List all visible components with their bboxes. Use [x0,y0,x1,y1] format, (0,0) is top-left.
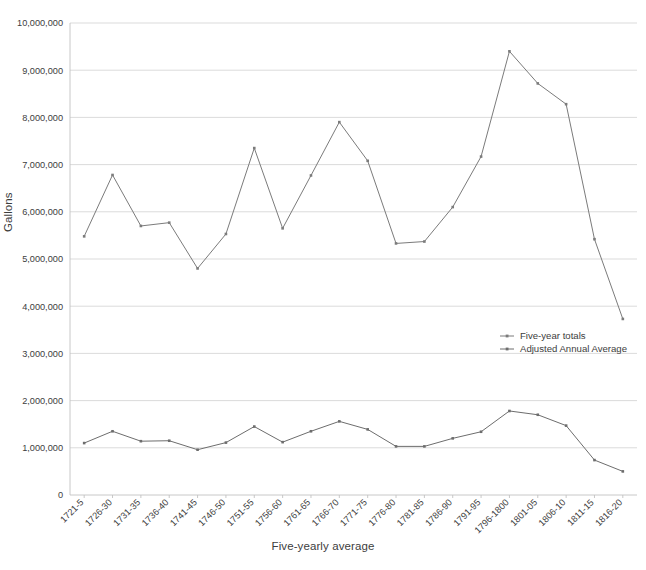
x-axis-tick-label: 1746-50 [196,497,227,528]
data-series [83,50,624,473]
y-axis-tick-label: 6,000,000 [22,207,63,217]
legend-marker-swatch [506,335,509,338]
series-2 [83,410,624,473]
data-point-marker [111,174,114,177]
x-axis-tick-label: 1731-35 [111,497,142,528]
data-point-marker [168,439,171,442]
x-axis-tick-label: 1736-40 [140,497,171,528]
x-axis-tick-label: 1776-80 [367,497,398,528]
data-point-marker [338,420,341,423]
data-point-marker [140,440,143,443]
y-axis-tick-label: 8,000,000 [22,113,63,123]
y-axis-tick-label: 10,000,000 [17,18,63,28]
data-point-marker [83,235,86,238]
data-point-marker [310,430,313,433]
x-axis-tick-label: 1761-65 [281,497,312,528]
data-point-marker [225,441,228,444]
data-point-marker [310,174,313,177]
line-chart-plot: 01,000,0002,000,0003,000,0004,000,0005,0… [0,0,646,570]
data-point-marker [395,445,398,448]
y-axis-tick-label: 0 [58,490,63,500]
data-point-marker [451,437,454,440]
data-point-marker [168,221,171,224]
legend-marker-swatch [506,348,509,351]
series-line [84,411,623,471]
x-axis-tick-label: 1811-15 [565,497,595,527]
data-point-marker [225,233,228,236]
data-point-marker [536,413,539,416]
data-point-marker [508,50,511,53]
x-axis-tick-label: 1781-85 [395,497,426,528]
data-point-marker [366,160,369,163]
series-line [84,51,623,319]
gridlines [70,23,637,448]
data-point-marker [480,155,483,158]
data-point-marker [253,147,256,150]
data-point-marker [565,103,568,106]
x-axis-tick-label: 1726-30 [83,497,114,528]
y-axis-tick-label: 3,000,000 [22,349,63,359]
data-point-marker [451,206,454,209]
x-axis-tick-label: 1816-20 [593,497,624,528]
chart-container: Gallons Five-yearly average 01,000,0002,… [0,0,646,570]
x-axis-tick-label: 1721-5 [58,497,85,524]
chart-legend: Five-year totalsAdjusted Annual Average [500,330,627,354]
data-point-marker [196,267,199,270]
data-point-marker [536,82,539,85]
y-axis-tick-labels: 01,000,0002,000,0003,000,0004,000,0005,0… [17,18,63,500]
legend-item-label: Five-year totals [520,330,586,341]
y-axis-tick-label: 9,000,000 [22,66,63,76]
data-point-marker [140,225,143,228]
y-axis-tick-label: 7,000,000 [22,160,63,170]
data-point-marker [83,442,86,445]
x-axis-tick-label: 1756-60 [253,497,284,528]
data-point-marker [593,459,596,462]
data-point-marker [281,441,284,444]
data-point-marker [338,121,341,124]
x-axis-tick-label: 1806-10 [537,497,568,528]
x-axis-tick-label: 1766-70 [310,497,341,528]
x-axis-tick-label: 1771-75 [338,497,369,528]
data-point-marker [281,227,284,230]
x-axis-tick-label: 1786-90 [423,497,454,528]
data-point-marker [423,445,426,448]
x-axis-tick-label: 1751-55 [225,497,256,528]
legend-item-label: Adjusted Annual Average [520,343,627,354]
y-axis-tick-label: 5,000,000 [22,254,63,264]
x-axis-tick-label: 1741-45 [168,497,199,528]
y-axis-tick-label: 4,000,000 [22,302,63,312]
data-point-marker [111,430,114,433]
data-point-marker [423,240,426,243]
x-axis-tick-labels: 1721-51726-301731-351736-401741-451746-5… [58,497,624,535]
y-axis-tick-label: 1,000,000 [22,443,63,453]
y-axis-tick-label: 2,000,000 [22,396,63,406]
data-point-marker [622,318,625,321]
x-axis-tick-label: 1801-05 [508,497,539,528]
series-1 [83,50,624,320]
data-point-marker [593,238,596,241]
data-point-marker [253,425,256,428]
data-point-marker [196,448,199,451]
data-point-marker [622,470,625,473]
data-point-marker [508,410,511,413]
data-point-marker [480,430,483,433]
data-point-marker [565,424,568,427]
data-point-marker [366,428,369,431]
data-point-marker [395,242,398,245]
